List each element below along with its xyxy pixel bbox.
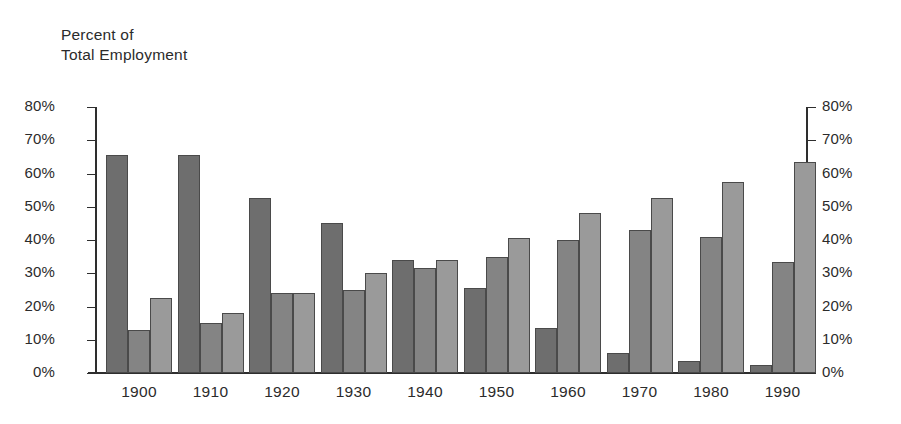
y-axis-tick-label: 50% bbox=[24, 197, 55, 214]
bar-group bbox=[178, 107, 244, 373]
bar-group bbox=[392, 107, 458, 373]
y-axis-tick-right bbox=[808, 373, 816, 374]
bar bbox=[750, 365, 772, 373]
bar bbox=[178, 155, 200, 373]
bar-group bbox=[535, 107, 601, 373]
y-axis-title: Percent of Total Employment bbox=[61, 25, 187, 65]
y-axis-tick-label-right: 50% bbox=[822, 197, 853, 214]
bar bbox=[535, 328, 557, 373]
y-axis-tick bbox=[87, 240, 95, 241]
x-axis-label: 1940 bbox=[385, 383, 465, 401]
y-axis-tick-label: 60% bbox=[24, 164, 55, 181]
bar bbox=[557, 240, 579, 373]
bar bbox=[293, 293, 315, 373]
y-axis-tick bbox=[87, 307, 95, 308]
bar bbox=[700, 237, 722, 373]
y-axis-tick-label: 70% bbox=[24, 130, 55, 147]
y-axis-tick bbox=[87, 273, 95, 274]
bar bbox=[464, 288, 486, 373]
bar bbox=[200, 323, 222, 373]
y-axis-tick-label: 20% bbox=[24, 297, 55, 314]
x-axis-label: 1950 bbox=[457, 383, 537, 401]
y-axis-tick-label-right: 10% bbox=[822, 330, 853, 347]
y-axis-tick bbox=[87, 140, 95, 141]
y-axis-tick-label: 40% bbox=[24, 230, 55, 247]
bar-group bbox=[321, 107, 387, 373]
bar bbox=[722, 182, 744, 373]
bar bbox=[321, 223, 343, 373]
x-axis-label: 1930 bbox=[314, 383, 394, 401]
x-axis-label: 1920 bbox=[242, 383, 322, 401]
bar bbox=[607, 353, 629, 373]
bar-group bbox=[249, 107, 315, 373]
y-axis-tick-label-right: 40% bbox=[822, 230, 853, 247]
y-axis-tick-label: 0% bbox=[33, 363, 55, 380]
x-axis-label: 1980 bbox=[671, 383, 751, 401]
bar bbox=[414, 268, 436, 373]
bar-group bbox=[464, 107, 530, 373]
y-axis-tick bbox=[87, 174, 95, 175]
plot-area bbox=[97, 107, 807, 373]
y-axis-tick bbox=[87, 373, 95, 374]
y-axis-tick-label-right: 30% bbox=[822, 263, 853, 280]
bar bbox=[436, 260, 458, 373]
y-axis-tick-label-right: 20% bbox=[822, 297, 853, 314]
y-axis-tick-label-right: 60% bbox=[822, 164, 853, 181]
y-axis-tick-label-right: 70% bbox=[822, 130, 853, 147]
bar bbox=[365, 273, 387, 373]
bar bbox=[651, 198, 673, 373]
x-axis-label: 1990 bbox=[743, 383, 823, 401]
y-axis-tick-label-right: 0% bbox=[822, 363, 844, 380]
bar bbox=[772, 262, 794, 373]
y-axis-tick-label-right: 80% bbox=[822, 97, 853, 114]
x-axis-label: 1970 bbox=[600, 383, 680, 401]
y-axis-tick-label: 30% bbox=[24, 263, 55, 280]
bar bbox=[629, 230, 651, 373]
bar bbox=[222, 313, 244, 373]
bar bbox=[486, 257, 508, 373]
bar-chart: Percent of Total Employment 80%70%60%50%… bbox=[0, 0, 901, 424]
y-axis-tick bbox=[87, 340, 95, 341]
bar bbox=[128, 330, 150, 373]
bar-group bbox=[678, 107, 744, 373]
y-axis-tick-label: 80% bbox=[24, 97, 55, 114]
bar bbox=[343, 290, 365, 373]
bar bbox=[106, 155, 128, 373]
y-axis-tick bbox=[87, 107, 95, 108]
x-axis-label: 1960 bbox=[528, 383, 608, 401]
y-axis-tick-label: 10% bbox=[24, 330, 55, 347]
x-axis-label: 1900 bbox=[99, 383, 179, 401]
bar-group bbox=[607, 107, 673, 373]
bar bbox=[508, 238, 530, 373]
x-axis-label: 1910 bbox=[171, 383, 251, 401]
bar bbox=[794, 162, 816, 373]
y-axis-tick bbox=[87, 207, 95, 208]
bar-group bbox=[750, 107, 816, 373]
bar bbox=[392, 260, 414, 373]
bar bbox=[579, 213, 601, 373]
bar bbox=[150, 298, 172, 373]
bar bbox=[249, 198, 271, 373]
bar-group bbox=[106, 107, 172, 373]
bar bbox=[271, 293, 293, 373]
bar bbox=[678, 361, 700, 373]
